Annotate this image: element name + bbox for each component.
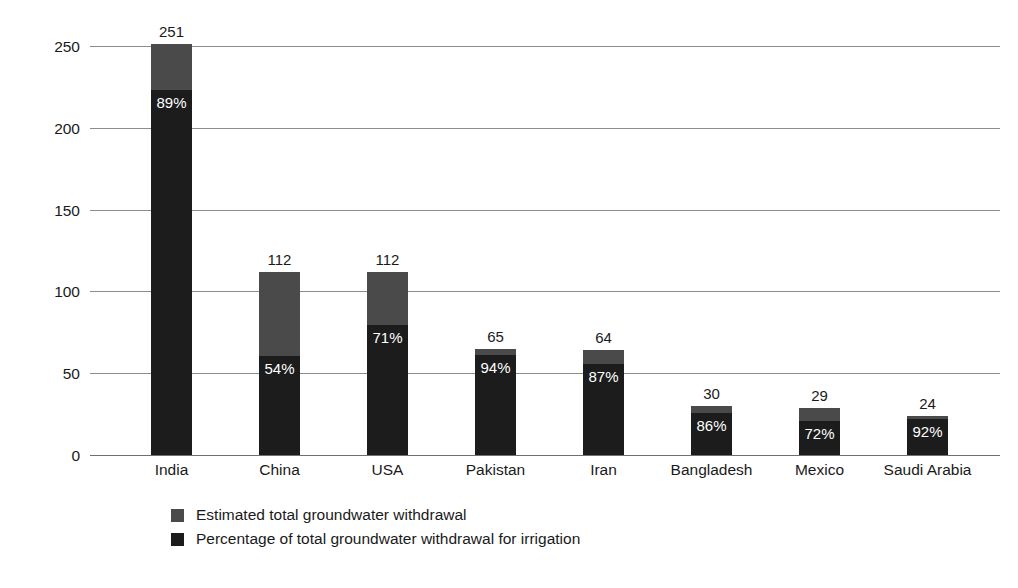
bar: 25189% — [151, 44, 192, 455]
bar-percentage-label: 54% — [264, 361, 294, 376]
bar-value-label: 251 — [159, 24, 184, 39]
y-tick-label: 200 — [20, 121, 80, 137]
plot-area: 25189%11254%11271%6594%6487%3086%2972%24… — [90, 46, 1000, 455]
gridline — [90, 373, 1000, 374]
bar-percentage-label: 86% — [696, 418, 726, 433]
bar: 6487% — [583, 350, 624, 455]
gridline — [90, 291, 1000, 292]
bar-value-label: 64 — [595, 330, 612, 345]
chart-figure: Estimated total groundwater withdrawal (… — [0, 0, 1018, 588]
bar-percentage-label: 72% — [804, 426, 834, 441]
y-tick-label: 0 — [20, 448, 80, 464]
x-axis-line — [90, 455, 1000, 456]
legend-item: Percentage of total groundwater withdraw… — [171, 527, 580, 551]
legend-swatch — [171, 533, 184, 546]
bar: 11271% — [367, 272, 408, 455]
bar-percentage-label: 87% — [588, 369, 618, 384]
bar-percentage-label: 89% — [156, 95, 186, 110]
gridline — [90, 210, 1000, 211]
bar-percentage-label: 94% — [480, 360, 510, 375]
bar: 3086% — [691, 406, 732, 455]
gridline — [90, 46, 1000, 47]
bar: 2972% — [799, 408, 840, 455]
bar-percentage-label: 71% — [372, 330, 402, 345]
bar-segment-irrigation — [151, 90, 192, 455]
x-category-label: Saudi Arabia — [858, 462, 998, 478]
y-tick-label: 150 — [20, 203, 80, 219]
legend-item: Estimated total groundwater withdrawal — [171, 503, 580, 527]
y-tick-label: 50 — [20, 366, 80, 382]
legend-swatch — [171, 509, 184, 522]
bar-value-label: 65 — [487, 329, 504, 344]
bar-value-label: 112 — [376, 252, 400, 267]
bar: 2492% — [907, 416, 948, 455]
bar-value-label: 30 — [703, 386, 720, 401]
bar-value-label: 29 — [811, 388, 828, 403]
legend-label: Percentage of total groundwater withdraw… — [196, 531, 580, 547]
bar-value-label: 112 — [268, 252, 292, 267]
bar: 6594% — [475, 349, 516, 455]
chart-legend: Estimated total groundwater withdrawalPe… — [171, 503, 580, 551]
bar-value-label: 24 — [919, 396, 936, 411]
y-axis-ticks: 250200150100500 — [10, 46, 80, 455]
legend-label: Estimated total groundwater withdrawal — [196, 507, 467, 523]
bar-percentage-label: 92% — [912, 424, 942, 439]
y-tick-label: 100 — [20, 284, 80, 300]
gridline — [90, 128, 1000, 129]
bar: 11254% — [259, 272, 300, 455]
y-tick-label: 250 — [20, 39, 80, 55]
